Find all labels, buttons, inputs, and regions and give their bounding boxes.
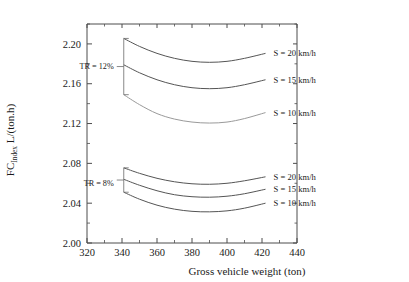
x-tick-label: 400 <box>219 247 235 258</box>
y-tick-label: 2.04 <box>63 198 82 209</box>
group-tr-12: TR = 12% <box>80 62 114 71</box>
series-label: S = 15 km/h <box>274 75 317 85</box>
y-tick-label: 2.20 <box>63 39 81 50</box>
x-tick-label: 420 <box>254 247 270 258</box>
x-axis-title: Gross vehicle weight (ton) <box>189 265 306 278</box>
group-tr-8: TR = 8% <box>84 179 114 188</box>
fuel-consumption-index-chart: 320340360380400420440 2.002.042.082.122.… <box>0 0 409 282</box>
y-tick-label: 2.12 <box>63 118 81 129</box>
series-label: S = 10 km/h <box>274 198 317 208</box>
chart-background <box>0 0 409 282</box>
series-label: S = 10 km/h <box>274 108 317 118</box>
series-label: S = 20 km/h <box>274 172 317 182</box>
y-axis-title-unit: L/(ton.h) <box>4 103 17 143</box>
x-tick-label: 360 <box>149 247 165 258</box>
x-tick-label: 440 <box>289 247 305 258</box>
y-tick-label: 2.16 <box>63 78 81 89</box>
y-tick-label: 2.00 <box>63 238 81 249</box>
y-tick-label: 2.08 <box>63 158 81 169</box>
y-axis-title-main: FC <box>4 163 16 176</box>
series-label: S = 15 km/h <box>274 184 317 194</box>
y-axis-title-sub: Index <box>10 146 19 163</box>
x-tick-label: 320 <box>79 247 95 258</box>
series-label: S = 20 km/h <box>274 48 317 58</box>
x-tick-label: 380 <box>184 247 200 258</box>
x-tick-label: 340 <box>114 247 130 258</box>
chart-figure: 320340360380400420440 2.002.042.082.122.… <box>0 0 409 282</box>
